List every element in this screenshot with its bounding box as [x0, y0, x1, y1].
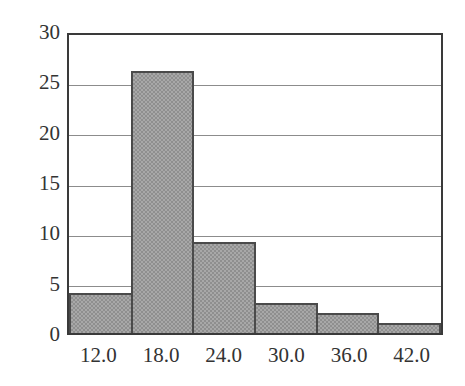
- bar: [254, 303, 318, 333]
- x-axis-tick-label: 42.0: [380, 341, 443, 371]
- y-axis-tick-label: 30: [4, 22, 60, 43]
- bar: [192, 242, 256, 333]
- y-axis-tick-label: 5: [4, 274, 60, 295]
- bars-layer: [69, 35, 441, 333]
- plot-area: [67, 33, 443, 335]
- bar: [69, 293, 133, 333]
- x-axis-tick-label: 30.0: [255, 341, 318, 371]
- y-axis-tick-label: 0: [4, 324, 60, 345]
- y-axis-tick-label: 25: [4, 72, 60, 93]
- bar: [377, 323, 441, 333]
- y-axis-tick-label: 15: [4, 173, 60, 194]
- y-axis-tick-label: 10: [4, 223, 60, 244]
- bar: [316, 313, 380, 333]
- y-axis-tick-label: 20: [4, 123, 60, 144]
- x-axis-tick-label: 12.0: [67, 341, 130, 371]
- x-axis-tick-label: 24.0: [192, 341, 255, 371]
- x-axis-tick-label: 36.0: [318, 341, 381, 371]
- histogram-chart: 051015202530 12.018.024.030.036.042.0: [0, 0, 465, 386]
- x-axis-tick-label: 18.0: [130, 341, 193, 371]
- x-axis-tick-labels: 12.018.024.030.036.042.0: [67, 341, 443, 371]
- bar: [131, 71, 195, 333]
